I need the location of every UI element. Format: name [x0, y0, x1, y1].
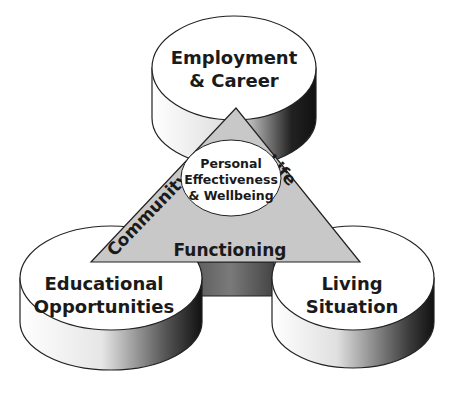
diagram-canvas: Employment & Career Educational Opportun…	[0, 0, 455, 395]
center-label-line1: Personal	[200, 156, 261, 171]
cylinder-label-line2: & Career	[189, 70, 279, 91]
cylinder-label-line2: Situation	[306, 296, 399, 317]
triangle-bottom-label: Functioning	[174, 240, 287, 260]
center-personal-effectiveness: Personal Effectiveness & Wellbeing	[181, 140, 281, 216]
cylinder-label-line1: Employment	[171, 47, 298, 68]
center-label-line2: Effectiveness	[184, 172, 278, 187]
cylinder-label-line1: Educational	[44, 273, 163, 294]
cylinder-top-face	[152, 16, 316, 120]
center-label-line3: & Wellbeing	[188, 188, 273, 203]
cylinder-label-line2: Opportunities	[34, 296, 174, 317]
cylinder-label-line1: Living	[321, 273, 382, 294]
